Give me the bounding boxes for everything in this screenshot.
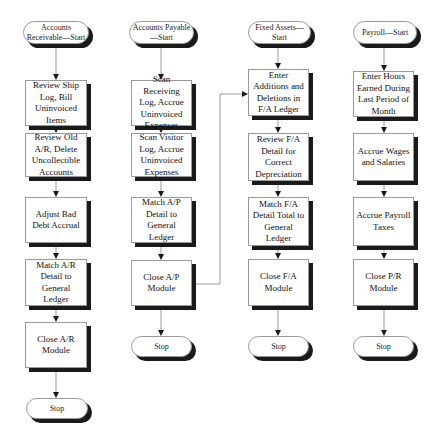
ap-step-3: Match A/P Detail to General Ledger (131, 197, 192, 243)
ar-step-1: Review Ship Log, Bill Uninvoiced Items (25, 80, 87, 126)
fa-step-4: Close F/A Module (248, 259, 309, 306)
ar-step-5: Close A/R Module (25, 322, 87, 368)
ap-step-4: Close A/P Module (131, 260, 192, 306)
fa-start-terminal: Fixed Assets—Start (248, 21, 311, 44)
pr-step-4: Close P/R Module (353, 259, 414, 306)
ar-step-2: Review Old A/R, Delete Uncollectible Acc… (25, 133, 87, 177)
pr-step-2: Accrue Wages and Salaries (353, 133, 414, 181)
ar-stop-terminal: Stop (26, 398, 88, 419)
fa-step-1: Enter Additions and Deletions in F/A Led… (248, 69, 309, 116)
fa-stop-terminal: Stop (248, 336, 309, 357)
ap-stop-terminal: Stop (131, 336, 192, 357)
ar-start-terminal: Accounts Receivable—Start (23, 21, 89, 44)
ar-step-3: Adjust Bad Debt Accrual (25, 197, 87, 243)
ap-start-terminal: Accounts Payable—Start (129, 21, 194, 44)
pr-step-1: Enter Hours Earned During Last Period of… (353, 71, 414, 117)
ar-step-4: Match A/R Detail to General Ledger (25, 259, 87, 306)
pr-start-terminal: Payroll—Start (353, 21, 417, 44)
pr-stop-terminal: Stop (353, 336, 414, 357)
pr-step-3: Accrue Payroll Taxes (353, 197, 414, 246)
fa-step-2: Review F/A Detail for Correct Depreciati… (248, 133, 309, 181)
fa-step-3: Match F/A Detail Total to General Ledger (248, 197, 309, 246)
ap-step-2: Scan Visitor Log, Accrue Uninvoiced Expe… (131, 133, 192, 177)
accounting-close-flowchart: Accounts Receivable—Start Review Ship Lo… (0, 0, 440, 441)
ap-step-1: Scan Receiving Log, Accrue Uninvoiced Ex… (131, 80, 192, 126)
